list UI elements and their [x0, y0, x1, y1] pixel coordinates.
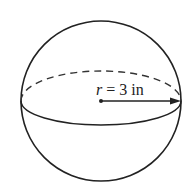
radius-arrowhead: [170, 98, 181, 105]
equator-front: [21, 101, 181, 125]
radius-label: r = 3 in: [96, 81, 144, 98]
sphere-diagram: r = 3 in: [0, 0, 193, 182]
